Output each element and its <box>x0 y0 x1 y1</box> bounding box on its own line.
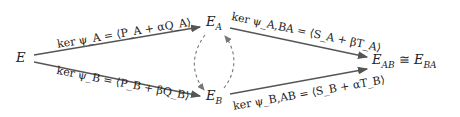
node-e-label: E <box>16 50 26 65</box>
node-eb-sub: B <box>216 96 223 106</box>
node-ea-base: E <box>206 14 216 29</box>
node-eab-base2: E <box>414 52 424 67</box>
node-ea: EA <box>206 14 222 32</box>
node-ea-sub: A <box>216 22 223 32</box>
node-eab-iso: ≅ <box>395 52 414 67</box>
node-eab-sub: AB <box>382 60 395 70</box>
node-eab-base: E <box>372 52 382 67</box>
node-eb-base: E <box>206 88 216 103</box>
node-eab-sub2: BA <box>423 60 436 70</box>
node-e: E <box>16 50 26 65</box>
node-eb: EB <box>206 88 222 106</box>
dashed-arrow-ea-to-eb <box>194 35 205 90</box>
dashed-arrow-eb-to-ea <box>224 36 234 88</box>
isogeny-diagram: E EA EB EAB ≅ EBA ker ψ_A = ⟨P_A + αQ_A⟩… <box>0 0 460 117</box>
node-eab: EAB ≅ EBA <box>372 52 437 70</box>
